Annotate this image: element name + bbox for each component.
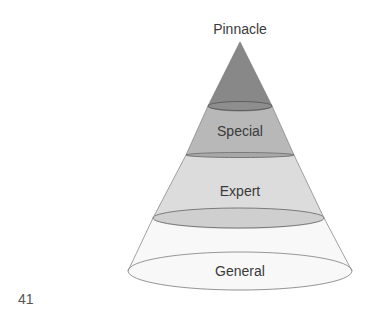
label-expert: Expert — [220, 183, 261, 199]
page-number: 41 — [18, 291, 34, 307]
layer-pinnacle — [208, 42, 272, 111]
label-special: Special — [217, 123, 263, 139]
label-pinnacle: Pinnacle — [213, 21, 267, 37]
pyramid-cone-diagram: Pinnacle Special Expert General — [0, 0, 388, 318]
label-general: General — [215, 263, 265, 279]
